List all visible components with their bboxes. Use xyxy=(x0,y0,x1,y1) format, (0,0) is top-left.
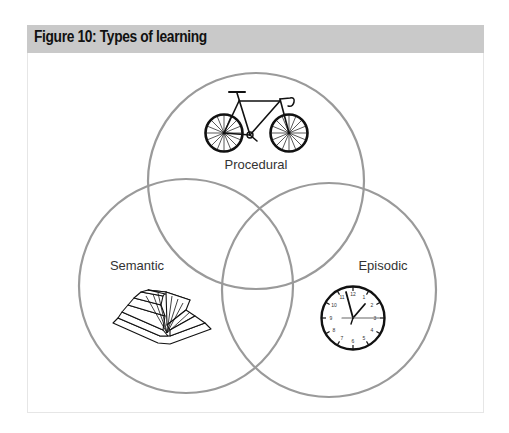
svg-text:8: 8 xyxy=(333,327,336,333)
procedural-label: Procedural xyxy=(225,157,288,172)
venn-diagram: Procedural Semantic Episodic xyxy=(0,0,509,433)
semantic-circle xyxy=(79,179,293,393)
svg-text:1: 1 xyxy=(363,294,366,300)
episodic-label: Episodic xyxy=(358,258,408,273)
svg-text:5: 5 xyxy=(363,335,366,341)
svg-text:6: 6 xyxy=(352,338,355,344)
svg-text:2: 2 xyxy=(371,302,374,308)
svg-text:11: 11 xyxy=(339,294,344,300)
svg-text:4: 4 xyxy=(371,327,374,333)
semantic-label: Semantic xyxy=(110,258,165,273)
svg-text:7: 7 xyxy=(341,335,344,341)
clock-icon: 12 1 2 3 4 5 6 7 8 9 10 11 xyxy=(322,287,385,350)
procedural-circle xyxy=(148,73,364,289)
svg-text:9: 9 xyxy=(330,315,333,321)
svg-text:10: 10 xyxy=(331,302,337,308)
svg-text:12: 12 xyxy=(350,291,356,297)
open-book-icon xyxy=(113,290,211,344)
bicycle-icon xyxy=(206,92,308,152)
